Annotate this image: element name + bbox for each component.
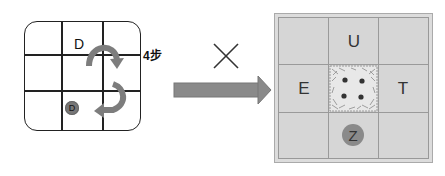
grid-line-vertical-2 <box>378 18 379 158</box>
face-bottom-label: Z <box>348 127 357 144</box>
right-arrow-icon <box>172 74 274 106</box>
center-dotted-face-icon <box>329 65 378 112</box>
roll-path-arrows-icon <box>0 0 180 176</box>
unfolded-cube-grid: U E T Z <box>278 17 429 159</box>
face-top-label: U <box>348 32 360 52</box>
face-right-label: T <box>398 79 408 99</box>
grid-line-horizontal-2 <box>279 112 428 113</box>
times-icon <box>212 42 240 70</box>
unfolded-cube-panel: U E T Z <box>274 13 433 163</box>
steps-label: 4步 <box>143 46 162 63</box>
face-bottom-circle: Z <box>342 124 364 146</box>
face-left-label: E <box>298 79 309 99</box>
